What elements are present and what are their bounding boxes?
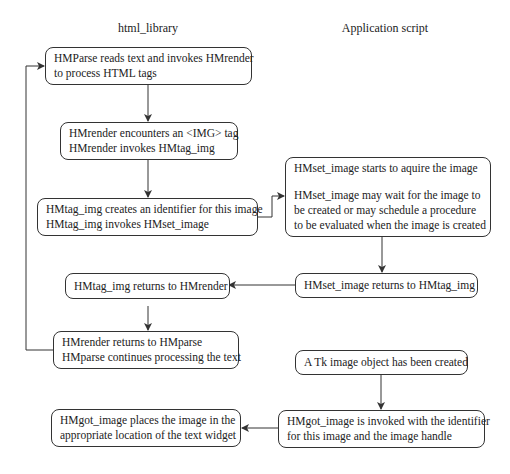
node-hmset-image-starts: HMset_image starts to aquire the image H… xyxy=(285,157,491,237)
node-hmtag-img-returns: HMtag_img returns to HMrender xyxy=(65,273,230,299)
node-text-line: for this image and the image handle xyxy=(287,429,476,444)
node-text-line: HMgot_image is invoked with the identifi… xyxy=(287,414,476,429)
node-text-line: HMset_image returns to HMtag_img xyxy=(304,278,469,293)
node-text-line: HMtag_img creates an identifier for this… xyxy=(46,202,249,217)
node-text-line: HMset_image starts to aquire the image xyxy=(294,161,482,176)
node-text-line: HMrender invokes HMtag_img xyxy=(69,141,229,156)
node-hmgot-image-places: HMgot_image places the image in the appr… xyxy=(51,409,241,447)
node-text-line: A Tk image object has been created xyxy=(304,355,459,370)
node-tk-image-created: A Tk image object has been created xyxy=(295,350,468,375)
node-hmgot-image-invoked: HMgot_image is invoked with the identifi… xyxy=(278,410,485,448)
node-text-line: HMgot_image places the image in the xyxy=(60,413,232,428)
node-text-line: HMtag_img invokes HMset_image xyxy=(46,217,249,232)
node-text-line: HMparse continues processing the text xyxy=(62,350,230,365)
node-hmrender-returns: HMrender returns to HMparse HMparse cont… xyxy=(53,331,239,369)
node-text-line: be created or may schedule a procedure xyxy=(294,203,482,218)
node-text-line: to process HTML tags xyxy=(54,66,243,81)
node-text-line: HMrender returns to HMparse xyxy=(62,335,230,350)
node-text-line: HMtag_img returns to HMrender xyxy=(74,279,221,294)
node-hmtag-img-creates: HMtag_img creates an identifier for this… xyxy=(37,198,258,236)
node-text-line: HMParse reads text and invokes HMrender xyxy=(54,51,243,66)
node-text-line: appropriate location of the text widget xyxy=(60,428,232,443)
node-text-line: to be evaluated when the image is create… xyxy=(294,218,482,233)
node-hmparse-reads: HMParse reads text and invokes HMrender … xyxy=(45,47,252,85)
node-text-line: HMrender encounters an <IMG> tag xyxy=(69,126,229,141)
node-text-line: HMset_image may wait for the image to xyxy=(294,188,482,203)
node-hmset-image-returns: HMset_image returns to HMtag_img xyxy=(295,273,478,298)
node-hmrender-encounters: HMrender encounters an <IMG> tag HMrende… xyxy=(60,122,238,160)
